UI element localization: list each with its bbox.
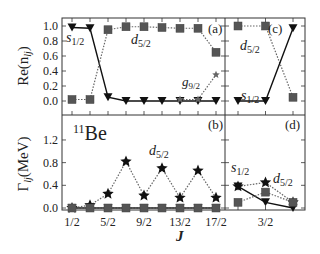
x-tick-label: 17/2 [205, 215, 226, 229]
panel-label-c: (c) [268, 21, 282, 36]
nucleus-label: 11Be [73, 122, 107, 144]
y-tick-label: 0.0 [43, 94, 58, 108]
label-d52-a: d5/2 [131, 32, 151, 49]
series-square [68, 204, 220, 212]
y-tick-label: 1.2 [43, 133, 58, 147]
label-d52-b: d5/2 [149, 143, 169, 160]
series-s1-2 [68, 24, 221, 106]
series-d5-2 [68, 23, 220, 104]
x-tick-label: 5/2 [100, 215, 115, 229]
chart-figure: 0.00.20.40.60.81.00.00.40.81.21/25/29/21… [0, 0, 320, 254]
x-tick-label: 1/2 [64, 215, 79, 229]
y-tick-label: 0.6 [43, 49, 58, 63]
y-tick-label: 0.2 [43, 79, 58, 93]
y-tick-label: 0.8 [43, 156, 58, 170]
panel-label-d: (d) [285, 117, 300, 132]
y-tick-label: 1.0 [43, 19, 58, 33]
y-tick-label: 0.0 [43, 201, 58, 215]
label-g92-a: g9/2 [182, 74, 200, 91]
x-tick-label: 9/2 [136, 215, 151, 229]
label-d52-d: d5/2 [273, 171, 293, 188]
label-d52-c: d5/2 [240, 38, 260, 55]
x-axis-title: J [175, 228, 184, 244]
panel-label-a: (a) [208, 21, 222, 36]
x-tick-label: 13/2 [169, 215, 190, 229]
label-s12-d: s1/2 [231, 160, 249, 177]
data-series [66, 22, 298, 213]
y-tick-label: 0.4 [43, 178, 58, 192]
y-axis-title-bottom: Γlj(MeV) [15, 136, 33, 191]
panel-label-b: (b) [208, 117, 223, 132]
y-tick-label: 0.8 [43, 34, 58, 48]
y-axis-title-top: Re(nlj) [15, 46, 33, 86]
y-tick-label: 0.4 [43, 64, 58, 78]
label-s12-c: s1/2 [241, 88, 259, 105]
x-tick-label: 3/2 [258, 215, 273, 229]
label-s12-a: s1/2 [66, 30, 84, 47]
